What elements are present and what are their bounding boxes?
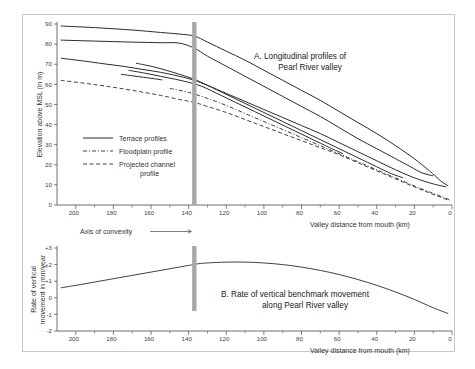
- y-tick-label: 50: [45, 101, 52, 108]
- panel-a-title-line2: Pearl River valley: [278, 63, 343, 72]
- legend-label-projected-channel-profile: Projected channel: [119, 161, 175, 169]
- legend-label-floodplain-profile: Floodplain profile: [119, 148, 172, 156]
- x-tick-label: 200: [69, 335, 80, 342]
- profile-line: [136, 63, 403, 178]
- y-tick-label: 0: [49, 201, 53, 208]
- x-tick-label: 180: [106, 209, 117, 216]
- axis-of-convexity-annotation: Axis of convexity: [80, 228, 191, 236]
- x-tick-label: 140: [182, 335, 193, 342]
- x-tick-label: 140: [182, 209, 193, 216]
- y-tick-label: +2: [45, 261, 53, 268]
- figure-canvas: 0102030405060708090 20018016014012010080…: [0, 0, 475, 369]
- panel-b: -2-10+1+2+3 200180160140120100806040200 …: [30, 244, 452, 355]
- x-tick-label: 20: [409, 209, 416, 216]
- y-tick-label: 90: [45, 20, 52, 27]
- panel-b-x-ticks: 200180160140120100806040200: [69, 331, 453, 342]
- x-tick-label: 200: [69, 209, 80, 216]
- x-tick-label: 0: [448, 209, 452, 216]
- y-tick-label: +1: [45, 277, 53, 284]
- panel-a-y-axis-title: Elevation above MSL (in m): [36, 72, 44, 158]
- y-tick-label: 20: [45, 161, 52, 168]
- axis-of-convexity-bar-panel-a: [192, 22, 196, 205]
- panel-b-y-ticks: -2-10+1+2+3: [45, 244, 57, 334]
- panel-a-x-axis-title: Valley distance from mouth (km): [310, 221, 410, 229]
- legend: Terrace profiles Floodplain profile Proj…: [83, 135, 175, 178]
- y-tick-label: 40: [45, 121, 52, 128]
- x-tick-label: 160: [144, 209, 155, 216]
- x-tick-label: 80: [296, 209, 303, 216]
- panel-b-title-line1: B. Rate of vertical benchmark movement: [221, 290, 370, 299]
- y-tick-label: 60: [45, 81, 52, 88]
- x-tick-label: 180: [106, 335, 117, 342]
- x-tick-label: 80: [296, 335, 303, 342]
- x-tick-label: 100: [257, 335, 268, 342]
- axis-of-convexity-label: Axis of convexity: [80, 228, 133, 236]
- y-tick-label: -2: [46, 327, 52, 334]
- x-tick-label: 60: [334, 209, 341, 216]
- panel-a-x-ticks: 200180160140120100806040200: [69, 205, 453, 216]
- x-tick-label: 120: [219, 209, 230, 216]
- x-tick-label: 120: [219, 335, 230, 342]
- y-tick-label: -1: [46, 311, 52, 318]
- x-tick-label: 160: [144, 335, 155, 342]
- axis-of-convexity-bar-panel-b: [192, 246, 196, 311]
- y-tick-label: 80: [45, 40, 52, 47]
- axis-of-convexity-arrow-icon: [150, 230, 191, 234]
- legend-label-terrace-profiles: Terrace profiles: [119, 135, 167, 143]
- figure-root: 0102030405060708090 20018016014012010080…: [0, 0, 475, 369]
- panel-b-title-line2: along Pearl River valley: [262, 301, 349, 310]
- x-tick-label: 20: [409, 335, 416, 342]
- panel-b-y-axis-title-line2: movement in mm/year: [39, 254, 47, 324]
- y-tick-label: 30: [45, 141, 52, 148]
- panel-a: 0102030405060708090 20018016014012010080…: [36, 20, 452, 236]
- profile-line: [61, 262, 448, 314]
- panel-b-x-axis-title: Valley distance from mouth (km): [310, 347, 410, 355]
- panel-b-y-axis-title-line1: Rate of vertical: [30, 266, 37, 313]
- panel-a-axes: 0102030405060708090 20018016014012010080…: [45, 20, 452, 216]
- x-tick-label: 40: [371, 209, 378, 216]
- legend-label-projected-channel-profile-line2: profile: [140, 170, 159, 178]
- y-tick-label: 70: [45, 60, 52, 67]
- x-tick-label: 100: [257, 209, 268, 216]
- panel-a-y-ticks: 0102030405060708090: [45, 20, 57, 208]
- y-tick-label: 0: [49, 294, 53, 301]
- panel-a-title-line1: A. Longitudinal profiles of: [254, 52, 347, 61]
- panel-b-series-group: [61, 262, 448, 314]
- x-tick-label: 0: [448, 335, 452, 342]
- y-tick-label: +3: [45, 244, 53, 251]
- x-tick-label: 40: [371, 335, 378, 342]
- x-tick-label: 60: [334, 335, 341, 342]
- y-tick-label: 10: [45, 181, 52, 188]
